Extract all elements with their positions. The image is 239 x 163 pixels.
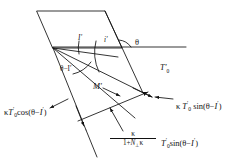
angle-label-theta-minus-I-prime: θ−I′ <box>60 66 71 73</box>
angle-label-I-prime: I′ <box>78 35 82 42</box>
expression-T0-sin-trailing: T′0sin(θ−I′) <box>161 137 198 150</box>
arc-I-prime <box>78 41 79 54</box>
fraction-denominator: 1+N⊥κ <box>110 140 156 149</box>
vector-label-T0-prime: T′0 <box>160 64 169 74</box>
vector-M-prime-line <box>78 92 148 121</box>
inclined-plane-parallelogram <box>37 11 122 48</box>
arrow-cos-component <box>76 106 84 126</box>
expression-kappa-T0-sin: κ T′0 sin(θ−I′) <box>176 100 221 113</box>
arc-i-prime <box>95 41 99 72</box>
leader-fraction-expression <box>110 108 123 131</box>
vector-M-prime-arrow <box>103 88 120 96</box>
leader-right-expression <box>155 97 173 99</box>
fraction-kappa-over-one-plus-Nperp-kappa: κ 1+N⊥κ <box>110 130 156 150</box>
angle-label-i-prime: i′ <box>104 37 108 44</box>
figure-canvas: I′ i′ θ θ−I′ M′ T′0 κT′0cos(θ−I′) κ T′0 … <box>0 0 239 163</box>
arrow-T0-prime <box>133 88 152 97</box>
ray-cos-component-extension <box>86 130 97 157</box>
angle-label-theta: θ <box>135 39 139 47</box>
leader-left-expression <box>50 99 68 108</box>
vector-label-M-prime: M′ <box>93 83 102 91</box>
expression-kappa-T0-cos: κT′0cos(θ−I′) <box>4 106 47 119</box>
plane-edge-extended <box>105 11 143 93</box>
fraction-numerator: κ <box>110 130 156 137</box>
